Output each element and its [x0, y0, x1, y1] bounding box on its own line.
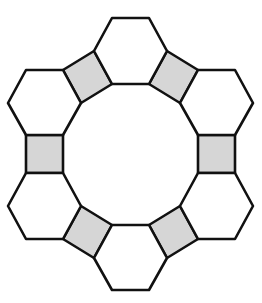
square-left	[26, 135, 63, 173]
hexagon-square-ring-diagram	[0, 0, 262, 303]
square-right	[198, 135, 235, 173]
